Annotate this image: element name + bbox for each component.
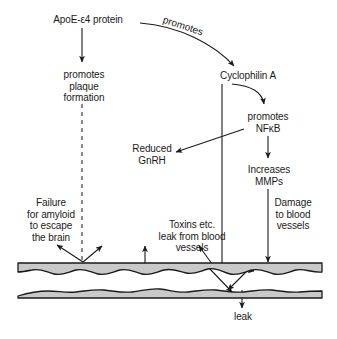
- edge-failure-arrow-left: [57, 245, 83, 262]
- node-leak: leak: [222, 311, 264, 323]
- node-cyclophilin-a: Cyclophilin A: [199, 70, 297, 82]
- edge-failure-arrow-right: [83, 246, 102, 262]
- vessel-wall-lower: [18, 289, 322, 298]
- node-promotes-plaque-formation: promotes plaque formation: [38, 69, 130, 104]
- node-toxins-leak: Toxins etc. leak from blood vessels: [140, 219, 244, 254]
- node-increases-mmps: Increases MMPs: [236, 164, 302, 187]
- node-promotes-nfkb: promotes NFκB: [232, 111, 304, 134]
- edge-cyclophilin-to-nfkb: [232, 84, 264, 104]
- node-failure-for-amyloid: Failure for amyloid to escape the brain: [10, 197, 92, 243]
- diagram-canvas: ApoE-ε4 protein promotes promotes plaque…: [0, 0, 337, 339]
- node-damage-to-blood-vessels: Damage to blood vessels: [262, 197, 324, 232]
- vessel-wall-upper: [18, 263, 322, 275]
- node-apoe-protein: ApoE-ε4 protein: [38, 14, 138, 26]
- node-reduced-gnrh: Reduced GnRH: [116, 143, 188, 166]
